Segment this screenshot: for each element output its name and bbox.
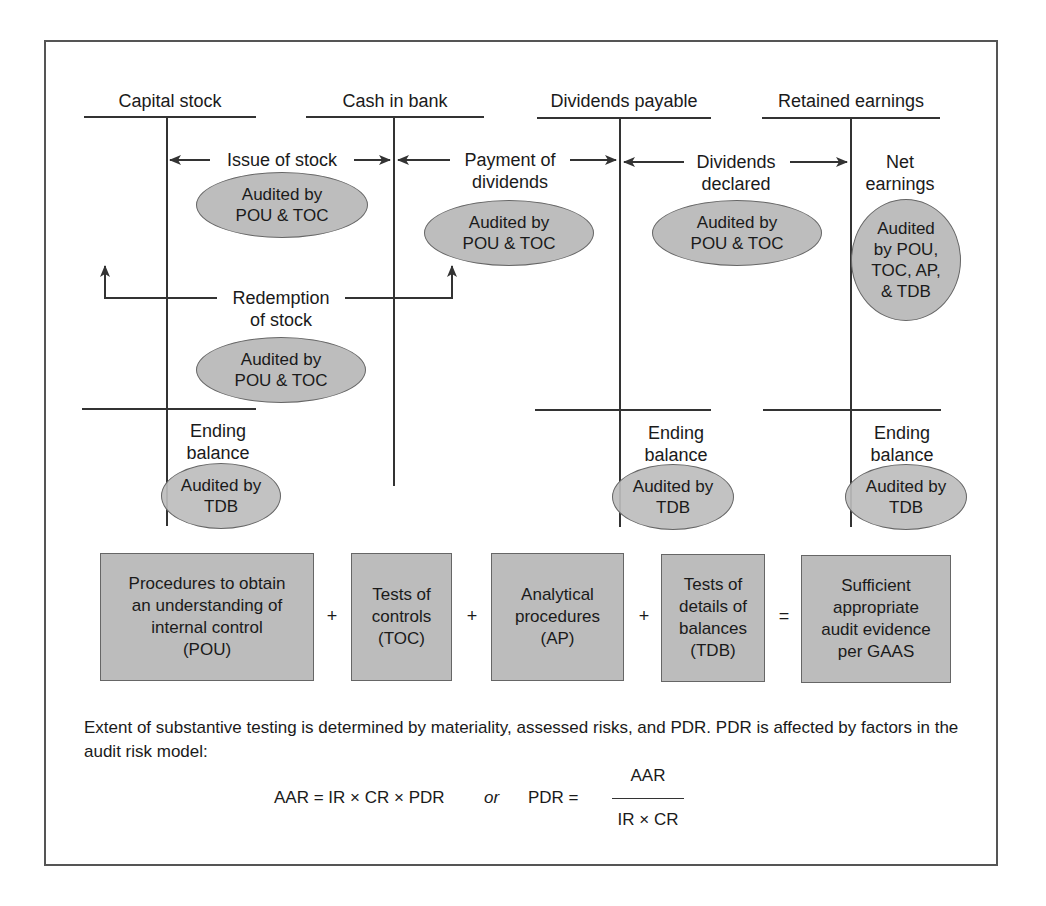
flow-label-dividends-declared: Dividends declared	[686, 151, 786, 195]
ending-balance-label-capital: Ending balance	[178, 420, 258, 464]
flow-label-payment-of-dividends: Payment of dividends	[450, 149, 570, 193]
formula-aar: AAR = IR × CR × PDR	[274, 788, 445, 808]
fraction-numerator: AAR	[612, 766, 684, 786]
plus-operator: +	[322, 606, 342, 627]
fraction-bar	[612, 798, 684, 799]
label-line: Ending	[178, 420, 258, 442]
label-line: Ending	[636, 422, 716, 444]
label-line: Redemption	[218, 287, 344, 309]
equals-operator: =	[774, 606, 794, 627]
label-line: Payment of	[450, 149, 570, 171]
label-line: declared	[686, 173, 786, 195]
flow-label-net-earnings: Net earnings	[860, 151, 940, 195]
audit-oval-dividends-declared: Audited by POU & TOC	[652, 200, 822, 266]
box-tdb: Tests of details of balances (TDB)	[661, 554, 765, 682]
audit-oval-ending-retained: Audited by TDB	[845, 464, 967, 530]
box-toc: Tests of controls (TOC)	[351, 553, 452, 681]
plus-operator: +	[634, 606, 654, 627]
label-line: of stock	[218, 309, 344, 331]
plus-operator: +	[462, 606, 482, 627]
label-line: Net	[860, 151, 940, 173]
label-line: Dividends	[686, 151, 786, 173]
label-line: balance	[178, 442, 258, 464]
fraction-denominator: IR × CR	[606, 810, 690, 830]
flow-label-redemption-of-stock: Redemption of stock	[218, 287, 344, 331]
audit-oval-net-earnings: Audited by POU, TOC, AP, & TDB	[851, 199, 961, 321]
label-line: balance	[636, 444, 716, 466]
formula-pdr-lhs: PDR =	[528, 788, 579, 808]
label-line: earnings	[860, 173, 940, 195]
audit-oval-payment-of-dividends: Audited by POU & TOC	[424, 200, 594, 266]
formula-or: or	[484, 788, 499, 808]
ending-balance-label-retained: Ending balance	[862, 422, 942, 466]
label-line: Ending	[862, 422, 942, 444]
label-line: balance	[862, 444, 942, 466]
box-ap: Analytical procedures (AP)	[491, 553, 624, 681]
audit-oval-issue-of-stock: Audited by POU & TOC	[196, 172, 368, 238]
audit-oval-redemption-of-stock: Audited by POU & TOC	[196, 337, 366, 403]
audit-oval-ending-capital: Audited by TDB	[161, 463, 281, 529]
footnote-paragraph: Extent of substantive testing is determi…	[84, 716, 964, 764]
label-line: dividends	[450, 171, 570, 193]
box-sufficient-evidence: Sufficient appropriate audit evidence pe…	[801, 555, 951, 683]
box-pou: Procedures to obtain an understanding of…	[100, 553, 314, 681]
flow-label-issue-of-stock: Issue of stock	[215, 149, 349, 171]
ending-balance-label-dividends: Ending balance	[636, 422, 716, 466]
audit-oval-ending-dividends: Audited by TDB	[612, 464, 734, 530]
